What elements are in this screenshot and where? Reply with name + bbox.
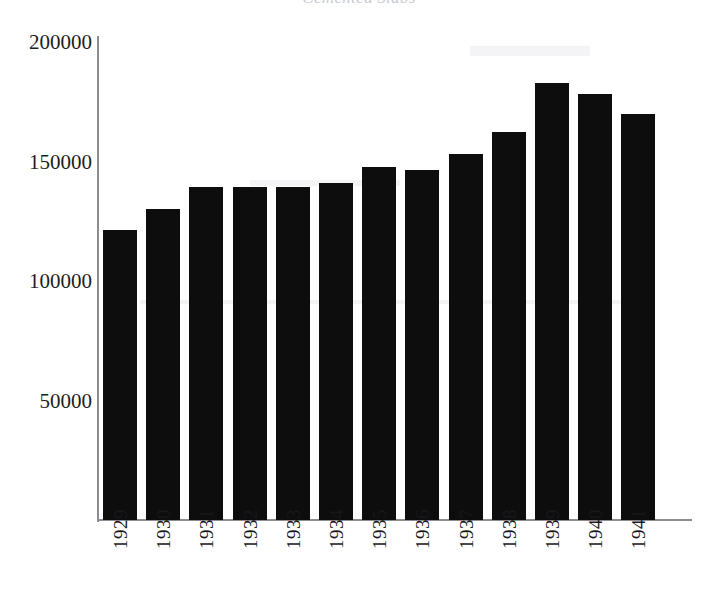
y-axis-tick-label: 150000 bbox=[8, 152, 92, 173]
x-axis-tick-label: 1931 bbox=[196, 528, 218, 596]
x-axis-tick-label-text: 1936 bbox=[412, 481, 434, 550]
bar[interactable] bbox=[319, 183, 353, 520]
bar[interactable] bbox=[362, 167, 396, 520]
x-axis-tick-label: 1937 bbox=[456, 528, 478, 596]
x-axis-tick-label-text: 1937 bbox=[456, 481, 478, 550]
x-axis-tick-label: 1932 bbox=[240, 528, 262, 596]
bar[interactable] bbox=[103, 230, 137, 520]
x-axis-tick-label: 1930 bbox=[153, 528, 175, 596]
bar[interactable] bbox=[146, 209, 180, 520]
bar[interactable] bbox=[276, 187, 310, 520]
x-axis-tick-label-text: 1941 bbox=[628, 481, 650, 550]
bar[interactable] bbox=[189, 187, 223, 520]
x-axis-tick-label-text: 1933 bbox=[283, 481, 305, 550]
y-axis-tick-100000: 100000 bbox=[0, 271, 92, 292]
x-axis-tick-label-text: 1939 bbox=[542, 481, 564, 550]
x-axis-tick-label: 1933 bbox=[283, 528, 305, 596]
y-axis-tick-150000: 150000 bbox=[0, 152, 92, 173]
y-axis-tick-label: 50000 bbox=[8, 391, 92, 412]
bar[interactable] bbox=[578, 94, 612, 520]
x-axis-tick-label: 1940 bbox=[585, 528, 607, 596]
x-axis-tick-label: 1929 bbox=[110, 528, 132, 596]
bar-chart: Cemented Slabs 50000100000150000200000 1… bbox=[0, 0, 718, 599]
y-axis-line bbox=[97, 36, 99, 522]
y-axis-tick-label: 200000 bbox=[8, 32, 92, 53]
bar[interactable] bbox=[449, 154, 483, 520]
x-axis-tick-label-text: 1938 bbox=[499, 481, 521, 550]
x-axis-tick-label: 1936 bbox=[412, 528, 434, 596]
x-axis-tick-label: 1941 bbox=[628, 528, 650, 596]
bar[interactable] bbox=[233, 187, 267, 520]
bar[interactable] bbox=[535, 83, 569, 521]
plot-area bbox=[100, 36, 692, 520]
x-axis-tick-label: 1935 bbox=[369, 528, 391, 596]
chart-title: Cemented Slabs bbox=[0, 0, 718, 5]
bar[interactable] bbox=[621, 114, 655, 520]
bar[interactable] bbox=[405, 170, 439, 520]
x-axis-tick-label: 1938 bbox=[499, 528, 521, 596]
x-axis-tick-label-text: 1932 bbox=[240, 481, 262, 550]
y-axis-tick-label: 100000 bbox=[8, 271, 92, 292]
x-axis-tick-label-text: 1934 bbox=[326, 481, 348, 550]
x-axis-tick-label: 1939 bbox=[542, 528, 564, 596]
x-axis-tick-label-text: 1940 bbox=[585, 481, 607, 550]
y-axis-tick-200000: 200000 bbox=[0, 32, 92, 53]
x-axis-tick-label: 1934 bbox=[326, 528, 348, 596]
bar[interactable] bbox=[492, 132, 526, 520]
x-axis-tick-label-text: 1931 bbox=[196, 481, 218, 550]
x-axis-tick-label-text: 1935 bbox=[369, 481, 391, 550]
x-axis-tick-label-text: 1929 bbox=[110, 481, 132, 550]
x-axis-tick-label-text: 1930 bbox=[153, 481, 175, 550]
y-axis-tick-50000: 50000 bbox=[0, 391, 92, 412]
